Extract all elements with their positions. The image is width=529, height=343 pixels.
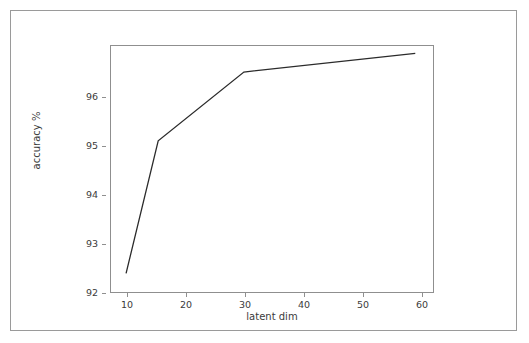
x-tick-mark bbox=[363, 293, 364, 297]
x-tick-mark bbox=[422, 293, 423, 297]
x-tick-mark bbox=[127, 293, 128, 297]
x-tick-label: 10 bbox=[109, 299, 145, 310]
x-tick-label: 40 bbox=[286, 299, 322, 310]
y-tick-label: 94 bbox=[64, 190, 98, 200]
data-series-accuracy bbox=[110, 45, 434, 293]
y-tick-label: 96 bbox=[64, 92, 98, 102]
y-tick-mark bbox=[102, 146, 106, 147]
y-tick-mark bbox=[102, 195, 106, 196]
y-tick-label: 93 bbox=[64, 239, 98, 249]
x-tick-label: 30 bbox=[227, 299, 263, 310]
x-tick-mark bbox=[304, 293, 305, 297]
chart-figure: 92 93 94 95 96 10 20 30 40 50 60 bbox=[0, 0, 529, 343]
y-axis-label: accuracy % bbox=[31, 81, 42, 201]
y-tick-label: 92 bbox=[64, 288, 98, 298]
x-tick-mark bbox=[186, 293, 187, 297]
x-tick-label: 60 bbox=[404, 299, 440, 310]
x-tick-label: 50 bbox=[345, 299, 381, 310]
y-tick-mark bbox=[102, 293, 106, 294]
y-tick-label: 95 bbox=[64, 141, 98, 151]
accuracy-line bbox=[126, 53, 415, 273]
x-tick-mark bbox=[245, 293, 246, 297]
x-tick-label: 20 bbox=[168, 299, 204, 310]
y-tick-mark bbox=[102, 244, 106, 245]
y-tick-mark bbox=[102, 97, 106, 98]
x-axis-label: latent dim bbox=[110, 311, 434, 322]
